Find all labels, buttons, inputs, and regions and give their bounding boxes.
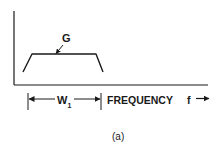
- bandwidth-label: W1: [57, 94, 71, 109]
- bandwidth-dimension: W1: [28, 93, 101, 110]
- figure-caption: (a): [112, 131, 124, 142]
- frequency-axis-label-group: FREQUENCY f: [107, 94, 209, 106]
- curve-pointer-arrow-icon: [56, 45, 63, 54]
- frequency-axis-label: FREQUENCY: [107, 94, 173, 106]
- frequency-response-diagram: G W1 FREQUENCY f (a): [0, 0, 223, 159]
- curve-label-group: G: [56, 32, 71, 54]
- axes: [14, 11, 208, 85]
- spectrum-curve-g: [23, 54, 103, 72]
- curve-label: G: [62, 32, 71, 44]
- bandwidth-subscript: 1: [67, 102, 71, 109]
- frequency-variable: f: [187, 94, 191, 106]
